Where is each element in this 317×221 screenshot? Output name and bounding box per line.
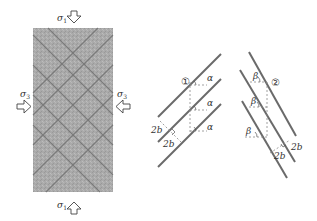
beta-label-3: β — [245, 126, 251, 136]
alpha-label-3: α — [207, 122, 213, 132]
alpha-label-1: α — [207, 73, 213, 83]
arrow-up-icon — [67, 202, 81, 214]
arrow-down-icon — [67, 11, 81, 23]
spacing-label-4: 2b — [273, 151, 286, 161]
arrow-right-icon — [17, 100, 31, 113]
diagram-canvas: σ1 σ1 σ3 σ3 ① α α α 2b 2b — [0, 0, 317, 221]
spacing-label-2: 2b — [162, 139, 175, 149]
sigma3-right-label: σ3 — [117, 89, 127, 100]
marker-2: ② — [271, 77, 280, 88]
sigma3-left-label: σ3 — [20, 89, 30, 100]
spacing-label-1: 2b — [150, 125, 163, 135]
marker-1: ① — [181, 76, 190, 87]
rock-specimen — [33, 28, 113, 192]
arrow-left-icon — [116, 100, 130, 113]
sigma1-top-label: σ1 — [57, 13, 67, 24]
beta-label-1: β — [252, 71, 258, 81]
panel-1-fracture-set: ① α α α 2b 2b — [150, 54, 221, 167]
sigma1-bottom-label: σ1 — [57, 200, 67, 211]
spacing-label-3: 2b — [290, 142, 303, 152]
alpha-label-2: α — [207, 98, 213, 108]
panel-2-fracture-set: ② β β β 2b 2b — [240, 52, 303, 178]
beta-label-2: β — [250, 96, 256, 106]
